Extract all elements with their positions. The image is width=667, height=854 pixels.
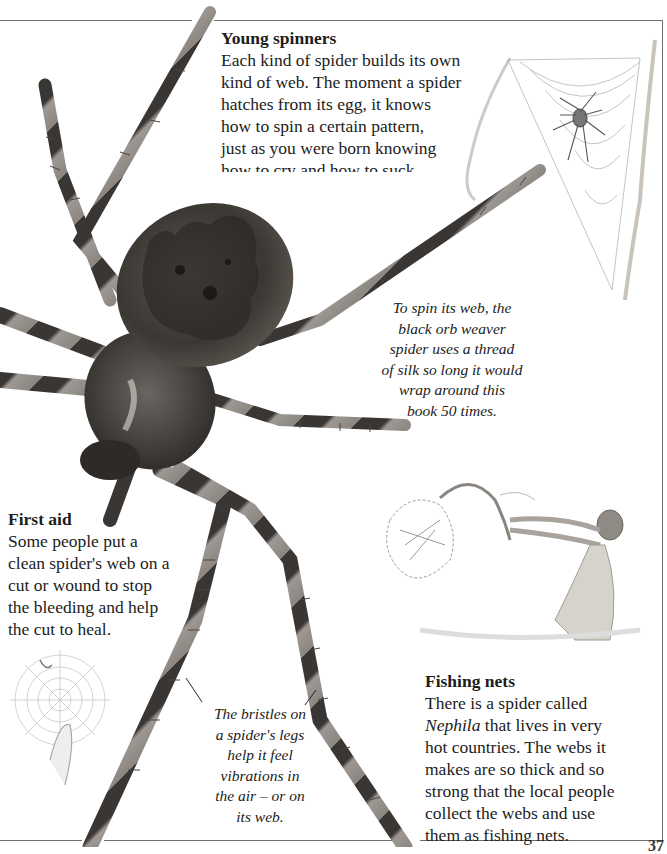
caption-orb-weaver: To spin its web, the black orb weaver sp… <box>362 298 542 421</box>
body-line: kind of web. The moment a spider <box>221 71 521 93</box>
body-line: the bleeding and help <box>8 596 198 618</box>
body-line: strong that the local people <box>425 780 665 802</box>
body-line: the cut to heal. <box>8 618 198 640</box>
body-line: There is a spider called <box>425 692 665 714</box>
caption-line: The bristles on <box>195 704 325 725</box>
fishing-illustration <box>387 484 640 640</box>
body-line: Each kind of spider builds its own <box>221 49 521 71</box>
body-line: clean spider's web on a <box>8 552 198 574</box>
body-line: Some people put a <box>8 530 198 552</box>
body-line: how to cry and how to suck. <box>221 159 521 172</box>
caption-line: the air – or on <box>195 786 325 807</box>
section-first-aid: First aid Some people put a clean spider… <box>8 508 198 640</box>
body-line: how to spin a certain pattern, <box>221 115 521 137</box>
body-line: collect the webs and use <box>425 802 665 824</box>
caption-line: vibrations in <box>195 766 325 787</box>
body-line: cut or wound to stop <box>8 574 198 596</box>
section-heading: Young spinners <box>221 27 521 49</box>
caption-line: its web. <box>195 807 325 828</box>
body-line: makes are so thick and so <box>425 758 665 780</box>
caption-bristles: The bristles on a spider's legs help it … <box>195 704 325 827</box>
caption-line: spider uses a thread <box>362 339 542 360</box>
body-line-rest: that lives in very <box>480 715 602 735</box>
species-name: Nephila <box>425 715 480 735</box>
body-line: Nephila that lives in very <box>425 714 665 736</box>
page-number: 37 <box>648 838 664 854</box>
caption-line: wrap around this <box>362 380 542 401</box>
caption-line: a spider's legs <box>195 725 325 746</box>
body-line: just as you were born knowing <box>221 137 521 159</box>
section-young-spinners: Young spinners Each kind of spider build… <box>221 27 521 172</box>
caption-line: black orb weaver <box>362 319 542 340</box>
caption-line: help it feel <box>195 745 325 766</box>
body-line: hatches from its egg, it knows <box>221 93 521 115</box>
first-aid-illustration <box>10 650 110 785</box>
body-line: hot countries. The webs it <box>425 736 665 758</box>
caption-line: book 50 times. <box>362 401 542 422</box>
caption-line: of silk so long it would <box>362 360 542 381</box>
section-fishing-nets: Fishing nets There is a spider called Ne… <box>425 670 665 846</box>
caption-line: To spin its web, the <box>362 298 542 319</box>
body-line: them as fishing nets. <box>425 824 665 846</box>
section-heading: Fishing nets <box>425 670 665 692</box>
section-heading: First aid <box>8 508 198 530</box>
